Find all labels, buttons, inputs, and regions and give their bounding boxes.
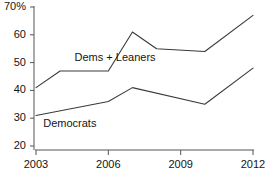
x-axis-tick-label: 2012 <box>228 159 266 170</box>
y-axis-tick-label: 50 <box>0 57 26 68</box>
x-axis-tick-label: 2009 <box>156 159 206 170</box>
y-axis-tick-label: 20 <box>0 140 26 151</box>
line-chart: 203040506070%2003200620092012Dems + Lean… <box>0 0 266 173</box>
y-axis-tick-label: 70% <box>0 1 26 12</box>
series-line-1 <box>36 68 253 115</box>
series-label-1: Democrats <box>43 118 96 129</box>
x-axis-tick-label: 2003 <box>11 159 61 170</box>
series-label-0: Dems + Leaners <box>75 52 156 63</box>
chart-plot-area <box>0 0 266 173</box>
x-axis-tick-label: 2006 <box>83 159 133 170</box>
y-axis-tick-label: 30 <box>0 112 26 123</box>
y-axis-tick-label: 60 <box>0 29 26 40</box>
y-axis-tick-label: 40 <box>0 84 26 95</box>
